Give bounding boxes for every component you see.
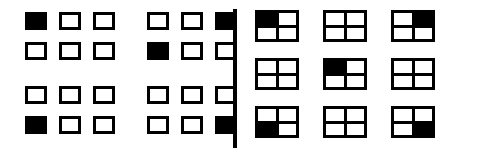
cell: [181, 42, 203, 60]
quadrant: [326, 109, 344, 121]
cell: [93, 42, 115, 60]
quadrant: [415, 28, 433, 40]
left-panel: [0, 0, 233, 156]
quadrant: [394, 28, 412, 40]
quadrant: [279, 28, 297, 40]
quadrant: [326, 13, 344, 25]
cell: [25, 86, 47, 104]
cell: [181, 86, 203, 104]
quadrant: [258, 124, 276, 136]
cell: [59, 116, 81, 134]
quadrant: [394, 109, 412, 121]
cell: [147, 42, 169, 60]
cell: [25, 42, 47, 60]
quadrant: [415, 61, 433, 73]
quadrant: [415, 13, 433, 25]
quadrant: [415, 109, 433, 121]
quadrant: [394, 61, 412, 73]
cell: [59, 12, 81, 30]
quad-box: [391, 10, 435, 42]
quadrant: [347, 109, 365, 121]
cell: [147, 86, 169, 104]
cell: [181, 12, 203, 30]
quadrant: [258, 109, 276, 121]
quad-box: [255, 106, 299, 138]
cell: [25, 12, 47, 30]
cell: [147, 12, 169, 30]
quadrant: [326, 61, 344, 73]
cell: [93, 86, 115, 104]
cell: [25, 116, 47, 134]
quadrant: [258, 13, 276, 25]
quad-box: [391, 106, 435, 138]
quadrant: [347, 13, 365, 25]
quadrant: [258, 28, 276, 40]
right-panel: [237, 0, 484, 156]
cell-block-bottom-right: [147, 86, 237, 134]
quadrant: [415, 124, 433, 136]
quadrant: [347, 76, 365, 88]
quad-box: [391, 58, 435, 90]
quadrant: [326, 124, 344, 136]
quadrant: [394, 13, 412, 25]
cell: [93, 12, 115, 30]
cell: [59, 86, 81, 104]
cell-block-bottom-left: [25, 86, 115, 134]
quadrant: [279, 124, 297, 136]
quadrant: [326, 28, 344, 40]
quadrant: [415, 76, 433, 88]
quad-box-grid: [255, 10, 435, 138]
cell: [181, 116, 203, 134]
quadrant: [347, 61, 365, 73]
quadrant: [347, 28, 365, 40]
quad-box: [255, 10, 299, 42]
cell: [147, 116, 169, 134]
quadrant: [279, 13, 297, 25]
figure-root: [0, 0, 484, 156]
quadrant: [258, 61, 276, 73]
quadrant: [347, 124, 365, 136]
quad-box: [323, 58, 367, 90]
quad-box: [323, 10, 367, 42]
quadrant: [279, 109, 297, 121]
cell-block-top-right: [147, 12, 237, 60]
quadrant: [258, 76, 276, 88]
quadrant: [394, 76, 412, 88]
quad-box: [255, 58, 299, 90]
quadrant: [326, 76, 344, 88]
quad-box: [323, 106, 367, 138]
cell: [93, 116, 115, 134]
quadrant: [279, 76, 297, 88]
quadrant: [279, 61, 297, 73]
cell-block-top-left: [25, 12, 115, 60]
cell: [59, 42, 81, 60]
quadrant: [394, 124, 412, 136]
